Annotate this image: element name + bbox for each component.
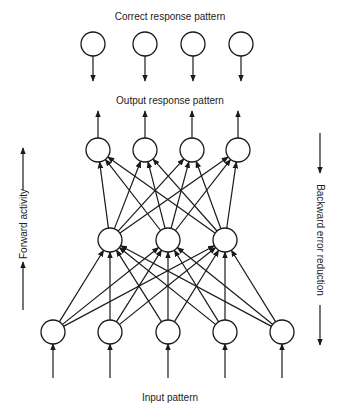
- neural-network-diagram: [0, 0, 341, 417]
- output-response-label: Output response pattern: [116, 95, 224, 106]
- input-neuron-node: [270, 320, 294, 344]
- connection-arrow: [196, 161, 221, 229]
- backward-error-label: Backward error reduction: [315, 184, 326, 296]
- output-neuron-node: [226, 138, 250, 162]
- input-neuron-node: [41, 320, 65, 344]
- input-neuron-node: [213, 320, 237, 344]
- connection-arrow: [119, 157, 228, 234]
- input-pattern-label: Input pattern: [142, 392, 198, 403]
- hidden-neuron-node: [156, 228, 180, 252]
- connection-arrow: [227, 162, 237, 229]
- connection-arrow: [59, 250, 104, 322]
- output-neuron-node: [86, 138, 110, 162]
- correct-neuron-node: [181, 32, 205, 56]
- output-neuron-node: [133, 138, 157, 162]
- forward-activity-label: Forward activity: [18, 189, 29, 259]
- output-neuron-node: [180, 138, 204, 162]
- hidden-neuron-node: [98, 228, 122, 252]
- hidden-neuron-node: [213, 228, 237, 252]
- input-neuron-node: [156, 320, 180, 344]
- connection-arrow: [100, 162, 109, 229]
- input-neuron-node: [98, 320, 122, 344]
- correct-neuron-node: [81, 32, 105, 56]
- connection-arrow: [105, 159, 161, 231]
- connection-arrow: [121, 246, 272, 327]
- correct-neuron-node: [133, 32, 157, 56]
- connection-arrow: [231, 250, 276, 322]
- correct-neuron-node: [229, 32, 253, 56]
- connection-arrow: [175, 159, 231, 231]
- correct-response-label: Correct response pattern: [115, 11, 226, 22]
